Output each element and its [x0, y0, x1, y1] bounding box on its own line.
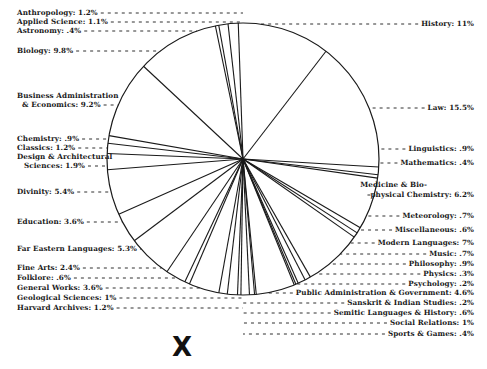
- slice-label: Mathematics: .4%: [400, 158, 474, 167]
- slice-label: Divinity: 5.4%: [17, 187, 74, 196]
- slice-label: Business Administration: [17, 91, 119, 100]
- slice-label: & Economics: 9.2%: [22, 100, 101, 109]
- slice-edge: [243, 51, 326, 159]
- slice-label: General Works: 3.6%: [17, 283, 103, 292]
- slice-label: Biology: 9.8%: [17, 46, 73, 55]
- slice-edge: [109, 136, 243, 159]
- slice-label: History: 11%: [421, 19, 474, 28]
- slice-label: Far Eastern Languages: 5.3%: [17, 244, 137, 253]
- slice-edge: [243, 159, 379, 167]
- slice-label: Folklore: .6%: [17, 273, 71, 282]
- slice-label: Medicine & Bio-: [360, 180, 427, 189]
- slice-label: Anthropology: 1.2%: [17, 8, 98, 17]
- slice-label: Meteorology: .7%: [402, 211, 474, 220]
- slice-label: Sanskrit & Indian Studies: .2%: [347, 298, 474, 307]
- slice-label: Law: 15.5%: [428, 103, 474, 112]
- slice-label: Fine Arts: 2.4%: [17, 263, 80, 272]
- slice-label: Physics: .3%: [423, 269, 474, 278]
- slice-label: Sciences: 1.9%: [24, 161, 85, 170]
- slice-label: Philosophy: .9%: [409, 259, 474, 268]
- slice-label: Public Administration & Government: 4.6%: [296, 288, 474, 297]
- slice-label: Applied Science: 1.1%: [17, 17, 108, 26]
- slice-label: Harvard Archives: 1.2%: [17, 303, 114, 312]
- slice-label: Linguistics: .9%: [408, 144, 474, 153]
- slice-label: Design & Architectural: [17, 152, 112, 161]
- slice-label: Geological Sciences: 1%: [17, 293, 116, 302]
- slice-edge: [144, 66, 243, 159]
- slice-label: Miscellaneous: .6%: [395, 225, 474, 234]
- x-mark: X: [172, 332, 192, 362]
- slice-boundaries: [107, 23, 379, 295]
- slice-edge: [243, 159, 294, 285]
- slice-label: Sports & Games: .4%: [388, 329, 474, 338]
- slice-label: Education: 3.6%: [17, 217, 84, 226]
- slice-edge: [189, 159, 243, 284]
- slice-edge: [185, 159, 243, 282]
- slice-edge: [219, 159, 243, 293]
- slice-label: Social Relations: 1%: [390, 318, 474, 327]
- slice-label: Classics: 1.2%: [17, 143, 75, 152]
- slice-label: Modern Languages: 7%: [378, 238, 474, 247]
- slice-label: Chemistry: .9%: [17, 134, 79, 143]
- slice-label: Psychology: .2%: [408, 279, 474, 288]
- slice-label: physical Chemistry: 6.2%: [370, 190, 474, 199]
- slice-label: Astronomy: .4%: [17, 26, 81, 35]
- slice-edge: [243, 159, 378, 178]
- slice-label: Semitic Languages & History: .6%: [334, 308, 474, 317]
- slice-label: Music: .7%: [429, 249, 474, 258]
